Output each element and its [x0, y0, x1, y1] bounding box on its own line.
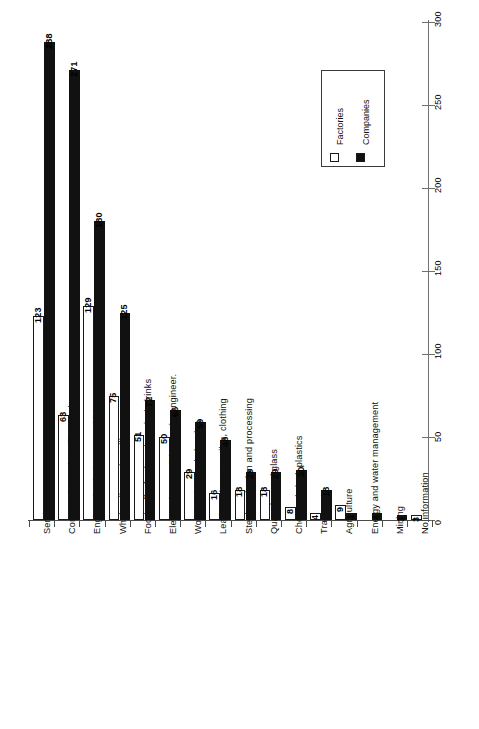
- category-label: Agriculture: [344, 488, 354, 534]
- category-tick: [105, 520, 106, 527]
- category-tick: [281, 520, 282, 527]
- value-tick-label: 250: [433, 94, 443, 110]
- legend-label-factories: Factories: [335, 108, 345, 145]
- category-label: Steel production and processing: [244, 398, 254, 534]
- bar-value-label: 125: [119, 304, 129, 320]
- category-label: Construction and ancillary trades: [67, 395, 77, 534]
- category-label: Leather, shoes, textiles, clothing: [218, 398, 228, 534]
- category-tick: [306, 520, 307, 527]
- bar-value-label: 75: [108, 392, 118, 402]
- category-label: Mining: [395, 506, 405, 534]
- category-label: Energy and water management: [370, 402, 380, 534]
- category-tick: [54, 520, 55, 527]
- bar-value-label: 18: [259, 487, 269, 497]
- bar-value-label: 50: [159, 434, 169, 444]
- category-tick: [256, 520, 257, 527]
- chart-legend: Factories Companies: [321, 70, 385, 167]
- category-tick: [357, 520, 358, 527]
- value-tick-label: 150: [433, 260, 443, 276]
- category-tick: [432, 520, 433, 527]
- bar-value-label: 123: [33, 307, 43, 323]
- category-tick: [205, 520, 206, 527]
- value-tick-label: 100: [433, 343, 443, 359]
- category-tick: [130, 520, 131, 527]
- category-label: Foodstuffs, food products incl. drinks: [143, 379, 153, 534]
- value-tick-label: 300: [433, 11, 443, 27]
- bar-companies: [44, 42, 55, 520]
- category-label: Engineering incl. motor vehicles: [92, 399, 102, 534]
- category-label: Transport: [319, 494, 329, 534]
- value-tick-label: 0: [433, 520, 443, 525]
- category-label: Quarrying and glass: [269, 449, 279, 534]
- category-tick: [407, 520, 408, 527]
- category-tick: [331, 520, 332, 527]
- legend-label-companies: Companies: [361, 99, 371, 145]
- bar-value-label: 8: [285, 509, 295, 514]
- bar-value-label: 129: [83, 297, 93, 313]
- category-label: Chemicals incl. plastics: [294, 435, 304, 534]
- category-label: Services: [42, 498, 52, 534]
- bar-value-label: 271: [69, 62, 79, 78]
- bar-value-label: 3: [411, 517, 421, 522]
- category-tick: [231, 520, 232, 527]
- category-tick: [29, 520, 30, 527]
- value-tick-label: 50: [433, 431, 443, 442]
- category-tick: [79, 520, 80, 527]
- filled-square-icon: [356, 153, 365, 162]
- category-tick: [382, 520, 383, 527]
- value-tick-label: 200: [433, 177, 443, 193]
- category-label: Wood and paper industries: [193, 421, 203, 534]
- bar-value-label: 18: [234, 487, 244, 497]
- category-label: Electronics, precision, optic. engineer.: [168, 374, 178, 534]
- category-tick: [155, 520, 156, 527]
- bar-factories: [33, 316, 44, 520]
- category-label: No information: [420, 472, 430, 534]
- category-label: Wholesaling and retailing: [118, 428, 128, 534]
- category-tick: [180, 520, 181, 527]
- bar-chart: 050100150200250300 123288632711291807512…: [0, 0, 479, 729]
- bar-value-label: 51: [133, 432, 143, 442]
- bar-value-label: 180: [94, 213, 104, 229]
- bar-value-label: 288: [44, 33, 54, 49]
- hollow-square-icon: [330, 153, 339, 162]
